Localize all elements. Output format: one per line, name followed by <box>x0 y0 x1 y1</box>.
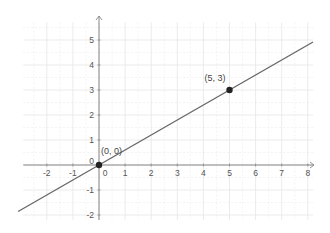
data-point <box>96 162 102 168</box>
y-tick-label: 2 <box>89 110 94 120</box>
y-tick-label: 3 <box>89 85 94 95</box>
x-tick-label: 4 <box>201 168 206 178</box>
grid <box>23 23 313 221</box>
data-point <box>226 87 232 93</box>
x-tick-label: 0 <box>103 168 108 178</box>
y-tick-label: 4 <box>89 60 94 70</box>
y-tick-label: 0 <box>89 156 94 166</box>
x-tick-label: 6 <box>253 168 258 178</box>
x-tick-label: 7 <box>279 168 284 178</box>
x-tick-label: 8 <box>305 168 310 178</box>
x-tick-label: 5 <box>227 168 232 178</box>
x-tick-label: -1 <box>69 168 77 178</box>
y-tick-label: 1 <box>89 135 94 145</box>
y-tick-label: 5 <box>89 35 94 45</box>
axes <box>23 16 314 220</box>
coordinate-plane: -2-1012345678-2-1012345 (0, 0)(5, 3) <box>0 0 330 233</box>
data-point-label: (5, 3) <box>205 73 226 83</box>
x-tick-label: 1 <box>123 168 128 178</box>
data-point-label: (0, 0) <box>101 146 122 156</box>
x-tick-label: 3 <box>175 168 180 178</box>
x-tick-label: -2 <box>43 168 51 178</box>
x-tick-label: 2 <box>149 168 154 178</box>
y-tick-label: -2 <box>86 210 94 220</box>
y-tick-label: -1 <box>86 185 94 195</box>
